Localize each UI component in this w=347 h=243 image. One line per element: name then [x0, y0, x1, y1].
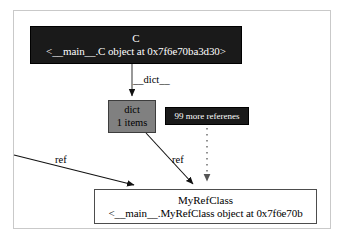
c-object-title: C	[132, 32, 139, 45]
dict-node[interactable]: dict 1 items	[108, 100, 156, 133]
c-object-node[interactable]: C <__main__.C object at 0x7f6e70ba3d30>	[30, 26, 242, 64]
edge-label-ref-external: ref	[55, 154, 67, 165]
diagram-canvas: C <__main__.C object at 0x7f6e70ba3d30> …	[0, 0, 347, 243]
myrefclass-node[interactable]: MyRefClass <__main__.MyRefClass object a…	[94, 189, 317, 224]
dict-node-item-count: 1 items	[117, 117, 148, 129]
edge-label-ref-dict: ref	[172, 154, 184, 165]
edge-label-dict: __dict__	[133, 74, 170, 85]
c-object-repr: <__main__.C object at 0x7f6e70ba3d30>	[46, 45, 226, 58]
dict-node-title: dict	[124, 104, 140, 116]
more-references-node[interactable]: 99 more referenes	[165, 107, 249, 125]
myrefclass-repr: <__main__.MyRefClass object at 0x7f6e70b	[108, 207, 302, 220]
more-references-label: 99 more referenes	[175, 111, 240, 122]
myrefclass-title: MyRefClass	[178, 194, 233, 207]
